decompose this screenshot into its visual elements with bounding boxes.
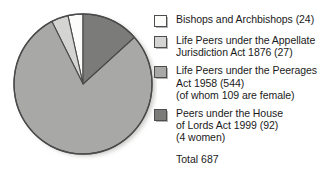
legend-swatch-life-peers-1876 (154, 36, 169, 49)
legend-item[interactable]: Peers under the House of Lords Act 1999 … (154, 107, 329, 144)
legend-item-label: Peers under the House of Lords Act 1999 … (176, 107, 283, 144)
legend-swatch-peers-1999 (154, 109, 169, 122)
pie-svg (11, 12, 157, 160)
legend-swatch-fill (154, 109, 167, 121)
pie-chart-graphic (11, 12, 157, 160)
legend-item[interactable]: Bishops and Archbishops (24) (154, 13, 329, 28)
legend-item-label: Bishops and Archbishops (24) (176, 13, 314, 25)
legend-swatch-fill (154, 36, 167, 48)
legend-swatch-life-peers-1958 (154, 66, 169, 79)
legend-swatch-fill (154, 15, 167, 27)
legend-swatch-bishops (154, 15, 169, 28)
legend-item[interactable]: Life Peers under the Peerages Act 1958 (… (154, 64, 329, 101)
legend-swatch-fill (154, 66, 167, 78)
chart-legend: Bishops and Archbishops (24) Life Peers … (154, 13, 329, 165)
legend-total-label: Total 687 (176, 153, 329, 165)
pie-chart-figure: Bishops and Archbishops (24) Life Peers … (0, 0, 329, 193)
legend-item-label: Life Peers under the Appellate Jurisdict… (176, 34, 315, 58)
legend-item[interactable]: Life Peers under the Appellate Jurisdict… (154, 34, 329, 58)
legend-item-label: Life Peers under the Peerages Act 1958 (… (176, 64, 317, 101)
